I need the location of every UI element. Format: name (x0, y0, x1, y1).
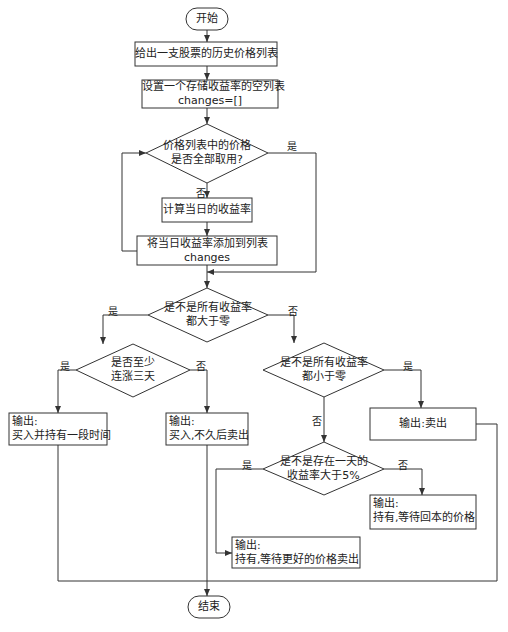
output-buy-sell-label-2: 买入,不久后卖出 (169, 429, 250, 443)
step-compute-return-label: 计算当日的收益率 (162, 203, 252, 217)
decision-all-positive-label-2: 都大于零 (148, 315, 268, 329)
decision-over5-label-2: 收益率大于5% (263, 469, 384, 483)
output-sell-label: 输出:卖出 (370, 417, 476, 431)
branch-no-all-used: 否 (196, 185, 206, 200)
decision-all-negative-label-1: 是不是所有收益率 (263, 356, 384, 370)
branch-yes-all-positive: 是 (108, 303, 118, 318)
branch-no-all-positive: 否 (288, 303, 298, 318)
step-init-list-label-1: 设置一个存储收益率的空列表 (142, 80, 278, 94)
end-label: 结束 (188, 600, 230, 614)
decision-three-days-label-2: 连涨三天 (86, 370, 180, 384)
output-hold-break-even-label-2: 持有,等待回本的价格 (373, 511, 476, 525)
step-given-prices-label: 给出一支股票的历史价格列表 (135, 47, 277, 61)
decision-all-positive-label-1: 是不是所有收益率 (148, 301, 268, 315)
output-hold-long-label-2: 买入并持有一段时间 (12, 429, 111, 443)
branch-yes-three-days: 是 (60, 358, 70, 373)
branch-no-over5: 否 (398, 457, 408, 472)
start-label: 开始 (186, 12, 228, 26)
branch-yes-all-used: 是 (287, 138, 297, 153)
output-hold-better-label-1: 输出: (235, 539, 261, 553)
branch-yes-over5: 是 (242, 457, 252, 472)
output-hold-long-label-1: 输出: (12, 415, 38, 429)
decision-over5-label-1: 是不是存在一天的 (263, 455, 384, 469)
branch-yes-all-negative: 是 (403, 358, 413, 373)
flowchart-canvas: 开始 给出一支股票的历史价格列表 设置一个存储收益率的空列表 changes=[… (0, 0, 508, 632)
branch-no-all-negative: 否 (312, 413, 322, 428)
decision-all-used-label-1: 价格列表中的价格 (150, 139, 264, 153)
decision-three-days-label-1: 是否至少 (86, 356, 180, 370)
decision-all-negative-label-2: 都小于零 (263, 370, 384, 384)
output-hold-better-label-2: 持有,等待更好的价格卖出 (235, 553, 360, 567)
decision-all-used-label-2: 是否全部取用? (150, 153, 264, 167)
output-buy-sell-label-1: 输出: (169, 415, 195, 429)
step-append-label-2: changes (137, 251, 277, 265)
branch-no-three-days: 否 (196, 358, 206, 373)
output-hold-break-even-label-1: 输出: (373, 497, 399, 511)
step-init-list-label-2: changes=[] (142, 94, 278, 108)
step-append-label-1: 将当日收益率添加到列表 (137, 237, 277, 251)
